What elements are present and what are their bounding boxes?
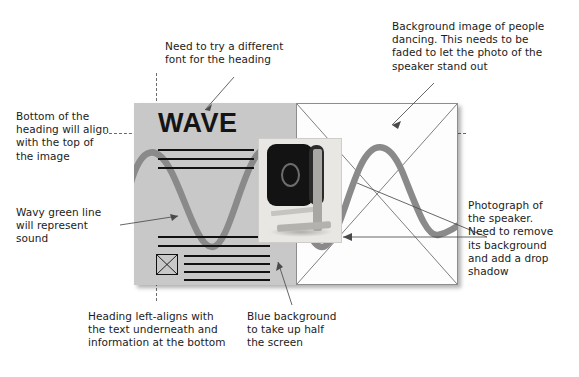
text-rule [158,167,254,169]
text-rule [158,158,254,160]
text-rule [158,236,270,238]
annotation-photograph: Photograph of the speaker. Need to remov… [468,199,576,278]
speaker-driver-cone-icon [281,163,300,187]
speaker-stand-arm [313,149,322,231]
mini-image-x-icon [157,255,177,274]
text-rule [184,263,270,265]
text-rule [184,255,270,257]
wireframe-mockup: WAVE [134,103,458,285]
annotation-heading-font: Need to try a different font for the hea… [165,40,315,66]
text-rule [158,245,270,247]
annotation-background-image: Background image of people dancing. This… [392,20,572,73]
annotation-heading-left-align: Heading left-aligns with the text undern… [88,310,238,350]
annotation-blue-background: Blue background to take up half the scre… [247,310,357,350]
mockup-heading: WAVE [158,109,238,137]
text-rule [158,149,254,151]
text-rule [184,271,270,273]
text-rule [184,279,270,281]
annotation-wavy-line: Wavy green line will represent sound [16,206,126,246]
annotation-heading-align: Bottom of the heading will align with th… [16,110,126,163]
speaker-product-photo [258,138,342,243]
mini-image-placeholder [156,254,178,275]
annotated-wireframe-canvas: WAVE [0,0,579,377]
speaker-stand-back [271,207,315,217]
